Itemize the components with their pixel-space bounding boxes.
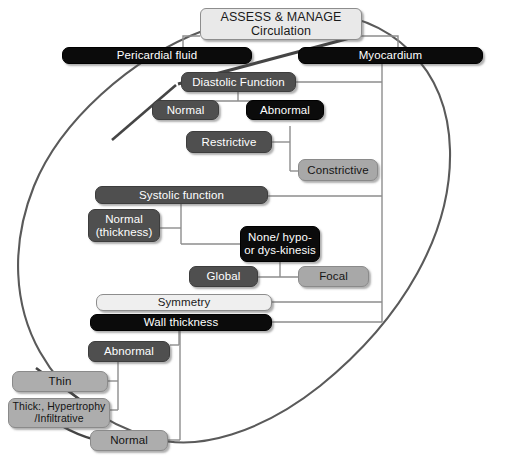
node-restrictive[interactable]: Restrictive	[186, 131, 272, 153]
node-myocardium[interactable]: Myocardium	[298, 47, 483, 64]
node-none-hypo-or-dyskinesis[interactable]: None/ hypo- or dys-kinesis	[240, 226, 320, 262]
node-wall-thickness[interactable]: Wall thickness	[90, 314, 272, 331]
node-constrictive[interactable]: Constrictive	[298, 159, 378, 181]
flowchart-canvas: ASSESS & MANAGE Circulation Pericardial …	[0, 0, 526, 463]
connector-abnormal-children	[272, 126, 298, 171]
node-wall-normal[interactable]: Normal	[90, 430, 168, 451]
node-wall-abnormal[interactable]: Abnormal	[88, 341, 170, 362]
root-line1: ASSESS & MANAGE	[221, 10, 342, 24]
node-diastolic-normal[interactable]: Normal	[152, 100, 219, 120]
node-symmetry[interactable]: Symmetry	[96, 294, 272, 311]
node-systolic-function[interactable]: Systolic function	[95, 186, 268, 204]
root-line2: Circulation	[251, 24, 311, 38]
node-thick-hypertrophy-infiltrative[interactable]: Thick:, Hypertrophy /Infiltrative	[8, 398, 110, 428]
connector-kinesis-children	[258, 262, 298, 277]
node-diastolic-abnormal[interactable]: Abnormal	[246, 100, 324, 120]
node-diastolic-function[interactable]: Diastolic Function	[181, 72, 296, 92]
node-focal[interactable]: Focal	[298, 266, 369, 287]
node-thin[interactable]: Thin	[12, 371, 108, 392]
node-pericardial-fluid[interactable]: Pericardial fluid	[62, 47, 252, 64]
node-assess-manage-circulation[interactable]: ASSESS & MANAGE Circulation	[200, 8, 362, 40]
node-global[interactable]: Global	[189, 266, 258, 287]
connector-systolic-children	[160, 204, 240, 244]
node-systolic-normal-thickness[interactable]: Normal (thickness)	[88, 209, 160, 242]
